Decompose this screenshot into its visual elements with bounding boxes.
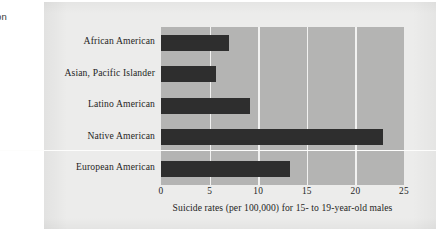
bar bbox=[161, 35, 229, 51]
category-label: Native American bbox=[0, 130, 155, 141]
bar bbox=[161, 66, 216, 82]
bar-row: Latino American bbox=[161, 90, 404, 122]
x-tick-label: 10 bbox=[253, 186, 263, 196]
margin-note-line-1: mon bbox=[0, 10, 42, 23]
figure-panel: mon es African AmericanAsian, Pacific Is… bbox=[0, 0, 436, 233]
category-label: African American bbox=[0, 35, 155, 46]
bar bbox=[161, 98, 250, 114]
bar-row: European American bbox=[161, 153, 404, 185]
plot-area: African AmericanAsian, Pacific IslanderL… bbox=[161, 27, 404, 185]
x-tick-label: 20 bbox=[351, 186, 361, 196]
category-label: Asian, Pacific Islander bbox=[0, 67, 155, 78]
bar bbox=[161, 129, 383, 145]
bar-row: African American bbox=[161, 27, 404, 59]
x-tick-label: 0 bbox=[159, 186, 164, 196]
bar bbox=[161, 161, 290, 177]
horizontal-page-rule bbox=[0, 150, 436, 152]
x-tick-label: 25 bbox=[399, 186, 409, 196]
bar-row: Asian, Pacific Islander bbox=[161, 59, 404, 91]
x-axis-ticks: 0510152025 bbox=[161, 186, 404, 202]
x-tick-label: 15 bbox=[302, 186, 312, 196]
category-label: Latino American bbox=[0, 98, 155, 109]
margin-note: mon es bbox=[0, 10, 42, 36]
category-label: European American bbox=[0, 161, 155, 172]
x-tick-label: 5 bbox=[207, 186, 212, 196]
x-axis-label: Suicide rates (per 100,000) for 15- to 1… bbox=[161, 202, 404, 213]
